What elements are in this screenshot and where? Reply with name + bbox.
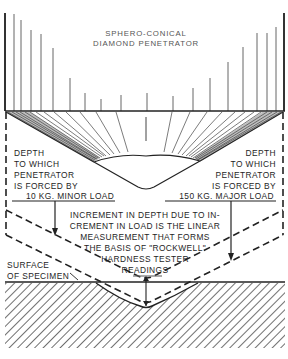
surface-label-line-1: SURFACE xyxy=(7,260,49,270)
minor-load-label: DEPTH TO WHICH PENETRATOR IS FORCED BY 1… xyxy=(14,148,114,201)
center-label-line-5: HARDNESS TESTER xyxy=(101,254,189,264)
specimen-body xyxy=(5,283,285,348)
surface-label: SURFACE OF SPECIMEN xyxy=(7,260,69,281)
right-label-line-2: TO WHICH xyxy=(231,159,276,169)
center-label-line-1: INCREMENT IN DEPTH DUE TO IN- xyxy=(70,210,220,220)
left-label-line-3: PENETRATOR xyxy=(14,170,74,180)
center-label-line-6: READINGS xyxy=(122,265,169,275)
increment-label: INCREMENT IN DEPTH DUE TO IN- CREMENT IN… xyxy=(70,210,220,275)
title-label: SPHERO-CONICAL DIAMOND PENETRATOR xyxy=(93,29,199,48)
rockwell-hardness-diagram: SPHERO-CONICAL DIAMOND PENETRATOR DEPTH … xyxy=(0,0,288,359)
title-line-1: SPHERO-CONICAL xyxy=(105,29,186,38)
right-label-line-4: IS FORCED BY xyxy=(212,181,276,191)
center-label-line-2: CREMENT IN LOAD IS THE LINEAR xyxy=(70,221,220,231)
left-label-line-4: IS FORCED BY xyxy=(14,181,78,191)
center-label-line-4: THE BASIS OF "ROCKWELL" xyxy=(84,243,206,253)
right-label-line-1: DEPTH xyxy=(246,148,276,158)
surface-label-line-2: OF SPECIMEN xyxy=(7,271,69,281)
right-label-line-5: 150 KG. MAJOR LOAD xyxy=(179,191,274,201)
left-label-line-1: DEPTH xyxy=(14,148,44,158)
surface-leader-arrow xyxy=(70,273,78,280)
penetrator-shank xyxy=(5,13,284,111)
left-label-line-2: TO WHICH xyxy=(14,159,59,169)
major-load-label: DEPTH TO WHICH PENETRATOR IS FORCED BY 1… xyxy=(179,148,276,201)
title-line-2: DIAMOND PENETRATOR xyxy=(93,39,199,48)
increment-depth-indicator xyxy=(133,276,162,306)
right-label-line-3: PENETRATOR xyxy=(216,170,276,180)
left-label-line-5: 10 KG. MINOR LOAD xyxy=(26,191,114,201)
center-label-line-3: MEASUREMENT THAT FORMS xyxy=(80,232,210,242)
